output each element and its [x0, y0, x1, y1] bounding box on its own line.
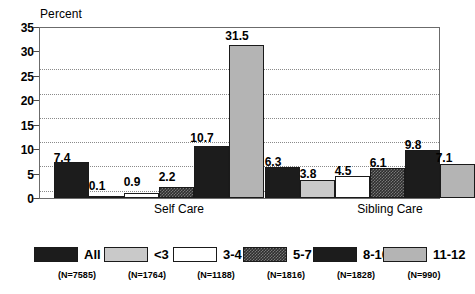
y-tick-mark-0 — [33, 198, 39, 199]
y-tick-label-15: 15 — [0, 120, 34, 132]
legend-label-11-12: 11-12 — [433, 247, 466, 262]
bar-value-sibling-care-8-10: 9.8 — [391, 139, 435, 151]
bar-sibling-care-11-12 — [440, 164, 475, 199]
y-tick-mark-20 — [33, 100, 39, 101]
y-tick-label-5: 5 — [0, 169, 34, 181]
bar-self-care-5-7 — [159, 187, 194, 198]
y-tick-label-0: 0 — [0, 193, 34, 205]
legend-swatch-3-4-icon — [173, 247, 217, 262]
y-tick-mark-5 — [33, 174, 39, 175]
legend-label-5-7: 5-7 — [293, 247, 312, 262]
bar-value-sibling-care-5-7: 6.1 — [356, 157, 400, 169]
bar-self-care-3-4 — [124, 193, 159, 198]
legend: All (N=7585) <3 (N=1764) 3-4 (N=1188) 5-… — [0, 243, 465, 291]
legend-n-11-12: (N=990) — [383, 270, 465, 280]
group-label-self-care: Self Care — [119, 203, 239, 216]
bar-self-care-lt3 — [89, 196, 124, 198]
y-tick-mark-25 — [33, 76, 39, 77]
y-tick-label-35: 35 — [0, 22, 34, 34]
y-tick-mark-10 — [33, 149, 39, 150]
legend-swatch-5-7-icon — [243, 247, 287, 262]
y-tick-mark-35 — [33, 27, 39, 28]
legend-item-11-12: 11-12 (N=990) — [383, 243, 465, 289]
group-label-sibling-care: Sibling Care — [330, 203, 450, 216]
y-tick-label-30: 30 — [0, 46, 34, 58]
bar-value-sibling-care-11-12: 7.1 — [424, 152, 464, 164]
bar-value-self-care-8-10: 10.7 — [180, 132, 224, 144]
y-tick-mark-15 — [33, 125, 39, 126]
bar-value-self-care-all: 7.4 — [40, 152, 84, 164]
bars-layer — [40, 28, 439, 198]
bar-sibling-care-lt3 — [300, 180, 335, 199]
legend-swatch-all-icon — [34, 247, 78, 262]
bar-value-sibling-care-all: 6.3 — [251, 156, 295, 168]
bar-value-self-care-11-12: 31.5 — [215, 30, 259, 42]
y-tick-label-10: 10 — [0, 144, 34, 156]
y-tick-label-20: 20 — [0, 95, 34, 107]
bar-self-care-11-12 — [229, 45, 264, 198]
legend-label-lt3: <3 — [154, 247, 169, 262]
y-tick-mark-30 — [33, 51, 39, 52]
y-axis-title: Percent — [40, 8, 82, 21]
legend-label-all: All — [84, 247, 101, 262]
bar-value-self-care-5-7: 2.2 — [145, 171, 189, 183]
legend-swatch-8-10-icon — [313, 247, 357, 262]
legend-swatch-lt3-icon — [104, 247, 148, 262]
bar-self-care-8-10 — [194, 146, 229, 198]
bar-sibling-care-3-4 — [335, 176, 370, 198]
y-tick-label-25: 25 — [0, 71, 34, 83]
legend-swatch-11-12-icon — [383, 247, 427, 262]
bar-sibling-care-5-7 — [370, 168, 405, 198]
legend-label-3-4: 3-4 — [223, 247, 242, 262]
